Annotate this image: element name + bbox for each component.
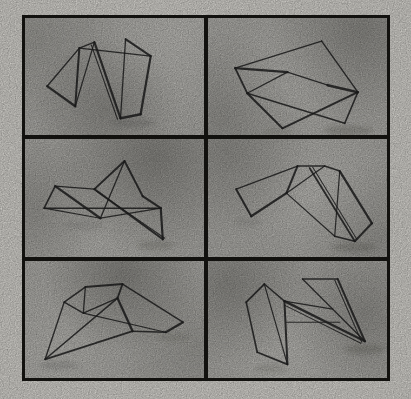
wire-object-1-drawing xyxy=(25,18,204,135)
wire-object-6-drawing xyxy=(208,261,387,378)
figure-panel-6 xyxy=(208,261,387,378)
figure-panel-3 xyxy=(25,139,204,256)
wire-object-2-drawing xyxy=(208,18,387,135)
figure-panel-4 xyxy=(208,139,387,256)
figure-panel-1 xyxy=(25,18,204,135)
wire-object-3-drawing xyxy=(25,139,204,256)
wire-object-5-drawing xyxy=(25,261,204,378)
wire-object-4-drawing xyxy=(208,139,387,256)
figure-panel-2 xyxy=(208,18,387,135)
figure-panel-5 xyxy=(25,261,204,378)
figure-frame xyxy=(22,15,390,381)
scanned-figure-page: { "figure": { "description": "Scanned gr… xyxy=(0,0,411,399)
